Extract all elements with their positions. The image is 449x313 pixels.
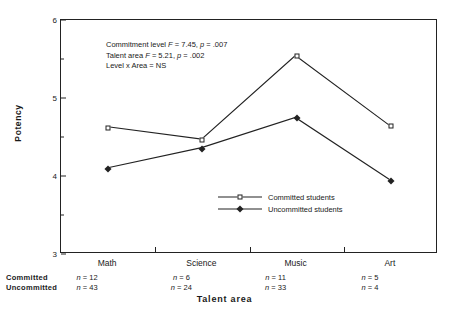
stat-line-2-prefix: Talent area xyxy=(106,51,145,60)
series-line-1 xyxy=(108,117,389,179)
chart-legend: Committed studentsUncommitted students xyxy=(218,191,343,215)
y-axis-title: Potency xyxy=(13,83,23,163)
sample-size-committed-art: n = 5 xyxy=(361,273,378,282)
sample-size-row-label-committed: Committed xyxy=(6,273,48,282)
open-square-marker-icon xyxy=(238,195,243,200)
filled-diamond-marker-icon xyxy=(236,205,243,212)
stat-line-3: Level x Area = NS xyxy=(106,61,227,72)
x-tick-mark-2 xyxy=(250,247,251,252)
data-point-0-music xyxy=(294,53,299,58)
x-category-label-math: Math xyxy=(98,258,117,268)
sample-size-uncommitted-music: n = 33 xyxy=(265,283,286,292)
stat-line-2-f-value: = 5.21, xyxy=(150,51,177,60)
sample-size-committed-science: n = 6 xyxy=(173,273,190,282)
y-tick-label-4: 4 xyxy=(53,172,57,181)
figure-potency-by-talent-area: Potency 3456 Commitment level F = 7.45, … xyxy=(0,0,449,313)
legend-item-1: Uncommitted students xyxy=(218,203,343,215)
legend-swatch-0 xyxy=(218,192,262,202)
stat-line-1-prefix: Commitment level xyxy=(106,40,168,49)
stat-line-1-f-value: = 7.45, xyxy=(173,40,200,49)
data-point-0-math xyxy=(106,125,111,130)
stat-line-2: Talent area F = 5.21, p = .002 xyxy=(106,51,227,62)
y-tick-label-6: 6 xyxy=(53,16,57,25)
sample-size-uncommitted-science: n = 24 xyxy=(171,283,192,292)
sample-size-committed-music: n = 11 xyxy=(265,273,286,282)
y-tick-mark-5 xyxy=(61,98,66,99)
y-tick-mark-minor-5.5 xyxy=(61,59,64,60)
stat-line-1-p-value: = .007 xyxy=(204,40,227,49)
x-category-label-art: Art xyxy=(384,258,395,268)
x-tick-mark-1 xyxy=(155,247,156,252)
x-category-label-science: Science xyxy=(186,258,216,268)
statistics-annotation: Commitment level F = 7.45, p = .007 Tale… xyxy=(106,40,227,72)
y-tick-mark-minor-3.5 xyxy=(61,215,64,216)
legend-label-0: Committed students xyxy=(268,193,335,202)
y-tick-mark-4 xyxy=(61,176,66,177)
sample-size-uncommitted-math: n = 43 xyxy=(77,283,98,292)
sample-size-row-label-uncommitted: Uncommitted xyxy=(6,283,57,292)
stat-line-1: Commitment level F = 7.45, p = .007 xyxy=(106,40,227,51)
y-tick-label-5: 5 xyxy=(53,94,57,103)
x-axis-title: Talent area xyxy=(0,294,449,304)
legend-label-1: Uncommitted students xyxy=(268,205,343,214)
x-category-label-music: Music xyxy=(285,258,307,268)
legend-swatch-1 xyxy=(218,204,262,214)
y-tick-mark-minor-4.5 xyxy=(61,137,64,138)
data-point-0-science xyxy=(200,138,205,143)
stat-line-2-p-value: = .002 xyxy=(181,51,204,60)
legend-item-0: Committed students xyxy=(218,191,343,203)
x-tick-mark-3 xyxy=(344,247,345,252)
y-tick-label-3: 3 xyxy=(53,250,57,259)
y-tick-mark-3 xyxy=(61,254,66,255)
y-tick-mark-6 xyxy=(61,20,66,21)
sample-size-uncommitted-art: n = 4 xyxy=(361,283,378,292)
data-point-0-art xyxy=(388,124,393,129)
sample-size-committed-math: n = 12 xyxy=(77,273,98,282)
